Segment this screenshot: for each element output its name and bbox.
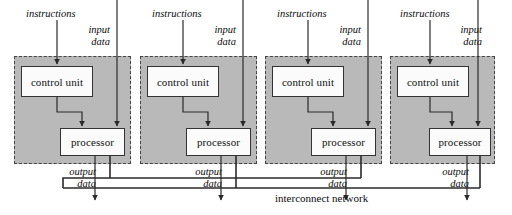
mimd-architecture-diagram: control unit processor instructions inpu… <box>0 0 512 215</box>
bus-left-riser <box>63 178 110 188</box>
control-to-processor-4 <box>430 97 452 126</box>
wiring-unit-4 <box>430 0 480 200</box>
wiring-unit-3 <box>308 0 368 200</box>
control-to-processor-3 <box>308 97 333 126</box>
control-to-processor-1 <box>57 97 82 126</box>
wiring-unit-2 <box>183 0 243 200</box>
wiring-unit-1 <box>57 0 117 200</box>
interconnect-bus <box>63 178 480 188</box>
control-to-processor-2 <box>183 97 208 126</box>
connector-lines <box>0 0 512 215</box>
interconnect-network-label: interconnect network <box>275 192 368 204</box>
